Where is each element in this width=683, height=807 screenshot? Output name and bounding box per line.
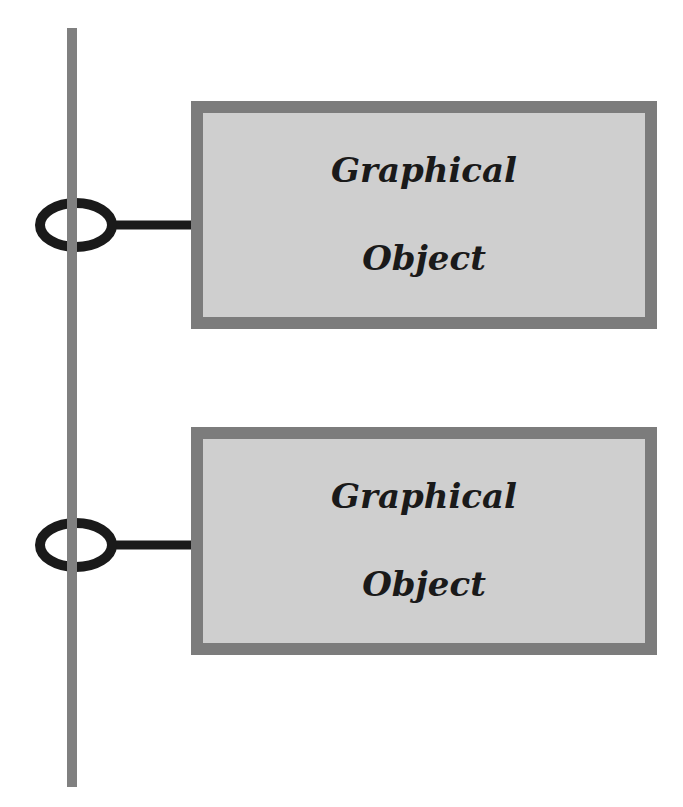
- node-label-2: Graphical Object: [331, 430, 517, 650]
- graphical-object-box-2: Graphical Object: [191, 427, 657, 655]
- node-label-1-line2: Object: [331, 236, 517, 280]
- node-label-2-line2: Object: [331, 562, 517, 606]
- node-label-1-line1: Graphical: [331, 148, 517, 192]
- diagram-canvas: Graphical Object Graphical Object: [0, 0, 683, 807]
- graphical-object-box-1: Graphical Object: [191, 101, 657, 329]
- node-label-2-line1: Graphical: [331, 474, 517, 518]
- node-label-1: Graphical Object: [331, 104, 517, 324]
- vertical-bus-line: [67, 28, 77, 787]
